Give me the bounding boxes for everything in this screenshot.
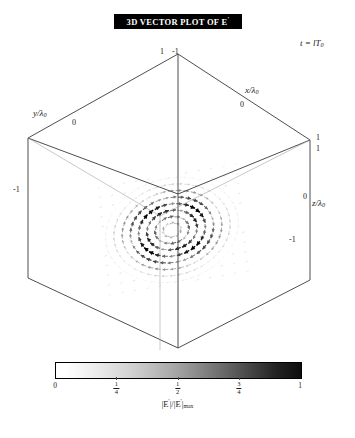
figure-title-text: 3D VECTOR PLOT OF E (127, 17, 228, 27)
figure-title-prime: ' (227, 16, 229, 22)
tick-y-zero: 0 (72, 118, 76, 127)
tick-z-zero: 0 (303, 192, 307, 201)
tick-top-left: 1 (160, 47, 164, 56)
tick-bottom-minus-one: -1 (289, 235, 296, 244)
tick-left-minus-one: -1 (13, 185, 20, 194)
z-axis-label: z/λ0 (312, 198, 325, 208)
tick-right-lower-one: 1 (316, 144, 320, 153)
colorbar-gradient (55, 362, 302, 379)
colorbar-group: 01412341 |E'|/|E'|max (0, 362, 355, 438)
tick-x-zero: 0 (240, 100, 244, 109)
x-axis-label: x/λ0 (245, 85, 258, 95)
cube-wireframe (0, 30, 355, 350)
tick-right-upper-one: 1 (316, 133, 320, 142)
y-axis-label: y/λ0 (33, 108, 46, 118)
tick-top-right: -1 (172, 47, 179, 56)
colorbar-tick-label: 0 (53, 381, 57, 390)
figure-title: 3D VECTOR PLOT OF E' (127, 16, 230, 27)
colorbar-tick-label: 34 (236, 381, 241, 395)
colorbar-caption: |E'|/|E'|max (0, 398, 355, 409)
colorbar-tick-label: 14 (114, 381, 119, 395)
figure-title-bar: 3D VECTOR PLOT OF E' (114, 14, 242, 29)
colorbar-tick-label: 1 (298, 381, 302, 390)
colorbar-tick-label: 12 (175, 381, 180, 395)
plot-area: 1 -1 x/λ0 0 y/λ0 0 -1 1 1 0 z/λ0 -1 (0, 30, 355, 350)
